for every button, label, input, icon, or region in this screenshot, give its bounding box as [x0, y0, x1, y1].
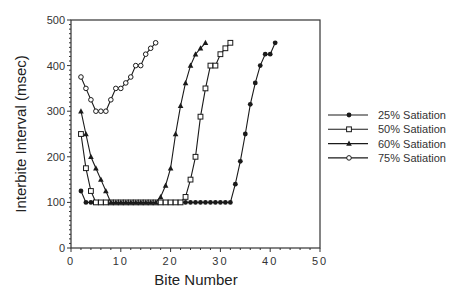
data-point	[79, 189, 84, 194]
data-point	[168, 165, 174, 170]
data-point	[163, 183, 169, 188]
data-point	[79, 132, 84, 137]
data-point	[103, 200, 108, 205]
data-point	[78, 108, 84, 113]
data-point	[173, 200, 178, 205]
data-point	[243, 132, 248, 137]
data-point	[213, 63, 218, 68]
y-tick-label: 100	[47, 196, 65, 208]
open-circle-icon	[347, 156, 352, 161]
legend: 25% Satiation50% Satiation60% Satiation7…	[328, 109, 446, 164]
data-point	[79, 75, 84, 80]
data-point	[104, 109, 109, 114]
data-point	[203, 40, 209, 45]
data-point	[84, 200, 89, 205]
data-point	[223, 200, 228, 205]
data-point	[148, 46, 153, 51]
data-point	[133, 63, 138, 68]
data-point	[158, 200, 163, 205]
x-tick-label: 0	[67, 255, 75, 267]
data-point	[119, 86, 124, 91]
x-tick-label: 10	[113, 255, 129, 267]
data-point	[198, 200, 203, 205]
data-point	[183, 200, 188, 205]
data-point	[228, 200, 233, 205]
data-point	[128, 75, 133, 80]
data-point	[109, 98, 114, 103]
legend-label: 50% Satiation	[378, 123, 446, 135]
y-tick-label: 200	[47, 151, 65, 163]
data-point	[198, 114, 203, 119]
data-point	[218, 200, 223, 205]
data-point	[99, 109, 104, 114]
legend-label: 25% Satiation	[378, 109, 446, 121]
data-point	[218, 52, 223, 57]
series-75-satiation	[79, 41, 158, 114]
data-point	[94, 200, 99, 205]
data-point	[89, 98, 94, 103]
data-point	[268, 52, 273, 57]
data-point	[188, 177, 193, 182]
legend-item: 60% Satiation	[328, 138, 446, 150]
y-tick-label: 300	[47, 105, 65, 117]
data-point	[114, 86, 119, 91]
y-axis-title: Interbite Interval (msec)	[12, 55, 29, 213]
x-tick-label: 50	[312, 255, 328, 267]
data-point	[258, 63, 263, 68]
legend-item: 75% Satiation	[328, 152, 446, 164]
x-axis-title: Bite Number	[154, 271, 237, 288]
legend-label: 60% Satiation	[378, 138, 446, 150]
data-point	[203, 200, 208, 205]
data-point	[238, 159, 243, 164]
data-point	[233, 182, 238, 187]
data-point	[208, 63, 213, 68]
data-point	[253, 81, 258, 86]
data-point	[193, 200, 198, 205]
legend-label: 75% Satiation	[378, 152, 446, 164]
x-tick-label: 30	[212, 255, 228, 267]
data-point	[183, 80, 189, 85]
data-point	[83, 131, 89, 136]
data-point	[89, 200, 94, 205]
y-tick-label: 400	[47, 60, 65, 72]
x-tick-label: 40	[262, 255, 278, 267]
y-axis: 0100200300400500	[47, 14, 71, 254]
data-point	[143, 52, 148, 57]
data-point	[263, 52, 268, 57]
y-tick-label: 500	[47, 14, 65, 26]
data-point	[168, 200, 173, 205]
data-point	[203, 86, 208, 91]
data-point	[89, 189, 94, 194]
data-point	[228, 40, 233, 45]
data-point	[223, 46, 228, 51]
data-point	[178, 200, 183, 205]
data-point	[208, 200, 213, 205]
data-point	[98, 177, 104, 182]
data-point	[88, 154, 94, 159]
data-point	[173, 131, 179, 136]
data-point	[123, 81, 128, 86]
line-chart: 0100200300400500 01020304050 Interbite I…	[0, 0, 457, 301]
data-point	[163, 200, 168, 205]
open-square-icon	[347, 127, 352, 132]
data-point	[178, 103, 184, 108]
legend-item: 25% Satiation	[328, 109, 446, 121]
x-tick-label: 20	[162, 255, 178, 267]
data-point	[158, 194, 164, 199]
data-point	[188, 200, 193, 205]
data-point	[84, 166, 89, 171]
data-point	[98, 200, 103, 205]
data-point	[94, 109, 99, 114]
y-tick-label: 0	[59, 242, 65, 254]
x-axis: 01020304050	[67, 248, 328, 267]
data-point	[273, 40, 278, 45]
data-point	[93, 165, 99, 170]
data-point	[213, 200, 218, 205]
filled-circle-icon	[347, 113, 352, 118]
data-point	[248, 102, 253, 107]
data-point	[103, 188, 109, 193]
plot-area	[78, 40, 277, 205]
data-point	[84, 86, 89, 91]
data-point	[153, 41, 158, 46]
data-point	[183, 195, 188, 200]
